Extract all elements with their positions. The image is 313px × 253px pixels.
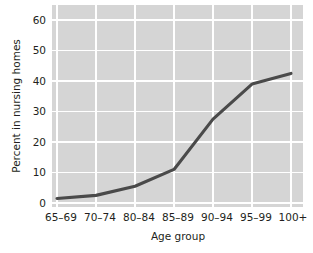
chart-figure: 60 50 40 30 20 10 0 65–69 70–74 80–84 85… bbox=[0, 0, 313, 253]
x-tick-label-85-89: 85–89 bbox=[162, 211, 194, 223]
x-tick-label-70-74: 70–74 bbox=[84, 211, 116, 223]
x-tick-label-95-99: 95–99 bbox=[240, 211, 272, 223]
x-tick-label-65-69: 65–69 bbox=[45, 211, 77, 223]
x-axis-tick-labels: 65–69 70–74 80–84 85–89 90–94 95–99 100+ bbox=[45, 211, 307, 223]
y-tick-label-60: 60 bbox=[33, 14, 46, 26]
y-tick-label-20: 20 bbox=[33, 136, 46, 148]
y-tick-label-30: 30 bbox=[33, 105, 46, 117]
y-tick-label-50: 50 bbox=[33, 44, 46, 56]
y-tick-label-10: 10 bbox=[33, 166, 46, 178]
y-tick-label-40: 40 bbox=[33, 75, 46, 87]
plot-area-background bbox=[52, 5, 303, 207]
y-tick-label-0: 0 bbox=[39, 197, 46, 209]
x-tick-label-90-94: 90–94 bbox=[201, 211, 233, 223]
nursing-home-percent-line-chart: 60 50 40 30 20 10 0 65–69 70–74 80–84 85… bbox=[0, 0, 313, 253]
x-tick-label-100-plus: 100+ bbox=[279, 211, 308, 223]
x-axis-title: Age group bbox=[151, 230, 205, 242]
y-axis-title: Percent in nursing homes bbox=[10, 39, 22, 173]
x-tick-label-80-84: 80–84 bbox=[123, 211, 155, 223]
y-axis-tick-labels: 60 50 40 30 20 10 0 bbox=[33, 14, 46, 209]
